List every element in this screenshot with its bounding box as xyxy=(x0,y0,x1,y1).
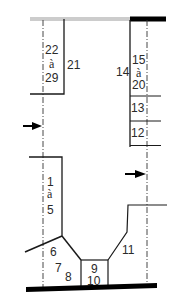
label-7: 7 xyxy=(55,262,62,274)
label-5: 5 xyxy=(47,204,54,216)
label-a-upper-left: à xyxy=(49,58,54,70)
label-a-lower-left: à xyxy=(47,188,52,200)
label-15: 15 xyxy=(132,54,145,66)
label-11: 11 xyxy=(122,244,134,256)
label-22: 22 xyxy=(45,44,58,56)
label-14: 14 xyxy=(116,66,129,78)
label-12: 12 xyxy=(131,127,144,139)
lower-left-outline xyxy=(29,157,62,236)
label-10: 10 xyxy=(87,275,100,287)
top-right-thick-wall xyxy=(130,17,166,22)
floor-plan-diagram xyxy=(0,0,178,300)
right-arrow-icon xyxy=(125,170,146,178)
label-29: 29 xyxy=(45,72,58,84)
top-left-wall xyxy=(30,18,131,20)
left-arrow-icon xyxy=(23,122,42,130)
label-20: 20 xyxy=(132,79,145,91)
label-13: 13 xyxy=(131,102,144,114)
lower-right-outline xyxy=(108,205,167,260)
diagonal-to-box xyxy=(62,236,81,260)
label-8: 8 xyxy=(65,271,72,283)
label-21: 21 xyxy=(67,59,80,71)
label-6: 6 xyxy=(50,246,57,258)
